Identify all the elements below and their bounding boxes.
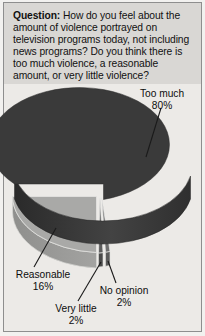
poll-pie-figure: Question: How do you feel about the amou…	[0, 0, 205, 336]
slice-label-reasonable-value: 16%	[6, 281, 80, 293]
slice-label-too-much: Too much 80%	[131, 88, 193, 111]
slice-label-very-little: Very little 2%	[44, 303, 108, 326]
slice-label-too-much-name: Too much	[140, 88, 184, 99]
slice-label-reasonable: Reasonable 16%	[6, 269, 80, 292]
slice-label-reasonable-name: Reasonable	[16, 269, 70, 280]
slice-label-very-little-value: 2%	[44, 315, 108, 327]
slice-label-no-opinion-name: No opinion	[100, 285, 149, 296]
slice-label-very-little-name: Very little	[55, 303, 96, 314]
leader-line-no-opinion	[108, 261, 116, 283]
slice-label-too-much-value: 80%	[131, 100, 193, 112]
